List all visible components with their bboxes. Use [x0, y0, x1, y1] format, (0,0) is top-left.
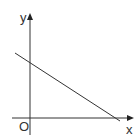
- y-axis-label: y: [20, 10, 27, 25]
- x-axis-arrow-icon: [127, 115, 134, 121]
- coordinate-diagram: y x O: [0, 0, 138, 140]
- origin-label: O: [19, 119, 29, 134]
- x-axis-label: x: [126, 122, 133, 137]
- y-axis-arrow-icon: [27, 13, 33, 20]
- graph-line: [15, 53, 120, 121]
